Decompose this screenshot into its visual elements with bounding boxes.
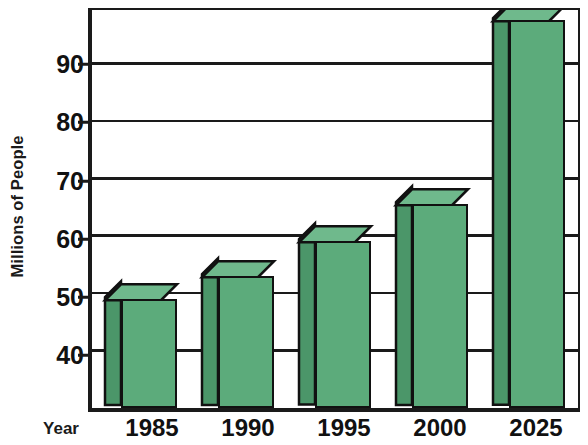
x-tick-label-2000: 2000 (392, 416, 488, 440)
y-tick-mark-60 (78, 238, 88, 241)
x-axis: Year 1985 1990 1995 2000 2025 (0, 414, 588, 445)
y-axis-tick-labels: 90 80 70 60 50 40 (34, 0, 84, 445)
x-tick-label-1985: 1985 (104, 416, 200, 440)
bar-chart: Millions of People 90 80 70 60 50 40 Yea… (0, 0, 588, 445)
bars (92, 10, 578, 408)
y-tick-mark-50 (78, 296, 88, 299)
bar-front-face (218, 276, 274, 408)
y-tick-mark-90 (78, 63, 88, 66)
y-tick-mark-70 (78, 180, 88, 183)
y-axis-title-label: Millions of People (8, 135, 27, 277)
x-tick-label-2025: 2025 (488, 416, 584, 440)
y-tick-mark-80 (78, 121, 88, 124)
bar-front-face (509, 20, 565, 408)
bar-2025 (509, 8, 565, 408)
bar-front-face (412, 204, 468, 408)
y-tick-mark-40 (78, 354, 88, 357)
bar-2000 (412, 188, 468, 408)
x-tick-label-1995: 1995 (296, 416, 392, 440)
bar-front-face (315, 241, 371, 408)
bar-front-face (121, 299, 177, 408)
x-tick-label-1990: 1990 (200, 416, 296, 440)
x-axis-title-label: Year (30, 419, 92, 439)
plot-area (88, 8, 580, 412)
bar-1985 (121, 283, 177, 408)
bar-1990 (218, 260, 274, 408)
bar-1995 (315, 225, 371, 408)
y-axis-title: Millions of People (0, 0, 34, 412)
